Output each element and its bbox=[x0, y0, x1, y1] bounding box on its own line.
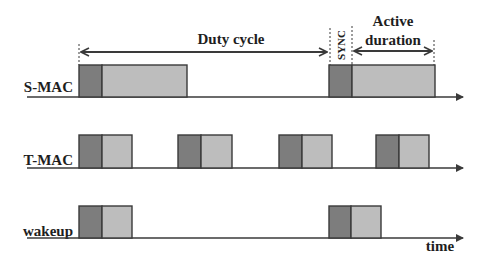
active-period bbox=[302, 135, 332, 168]
row-label-wakeup: wakeup bbox=[23, 223, 73, 239]
tmac-row-blocks bbox=[79, 135, 429, 168]
sync-annotation: SYNC bbox=[335, 30, 347, 60]
time-axis-label: time bbox=[426, 238, 455, 254]
sync-period bbox=[279, 135, 302, 168]
sync-period bbox=[178, 135, 201, 168]
sync-period bbox=[79, 135, 102, 168]
active-period bbox=[351, 206, 381, 238]
sync-period bbox=[376, 135, 399, 168]
slot-block bbox=[79, 65, 187, 97]
smac-row-blocks bbox=[79, 65, 435, 97]
slot-block bbox=[178, 135, 232, 168]
active-period bbox=[102, 65, 187, 97]
slot-block bbox=[79, 206, 132, 238]
sync-period bbox=[79, 206, 102, 238]
active-period bbox=[102, 135, 132, 168]
active-duration-annotation: Active duration bbox=[354, 13, 432, 51]
mac-timing-diagram: Duty cycle Active duration SYNC S-MAC T-… bbox=[0, 0, 483, 265]
row-label-tmac: T-MAC bbox=[24, 152, 73, 168]
sync-period bbox=[79, 65, 102, 97]
sync-period bbox=[329, 65, 352, 97]
duty-cycle-label: Duty cycle bbox=[197, 31, 264, 47]
sync-label: SYNC bbox=[335, 30, 347, 60]
active-label-line2: duration bbox=[365, 32, 422, 48]
slot-block bbox=[79, 135, 132, 168]
slot-block bbox=[376, 135, 429, 168]
wakeup-row-blocks bbox=[79, 206, 381, 238]
active-period bbox=[102, 206, 132, 238]
slot-block bbox=[279, 135, 332, 168]
duty-cycle-annotation: Duty cycle bbox=[81, 31, 327, 52]
active-period bbox=[352, 65, 435, 97]
slot-block bbox=[329, 206, 381, 238]
slot-block bbox=[329, 65, 435, 97]
sync-period bbox=[329, 206, 351, 238]
active-label-line1: Active bbox=[373, 13, 414, 29]
active-period bbox=[399, 135, 429, 168]
active-period bbox=[201, 135, 232, 168]
row-label-smac: S-MAC bbox=[24, 79, 73, 95]
